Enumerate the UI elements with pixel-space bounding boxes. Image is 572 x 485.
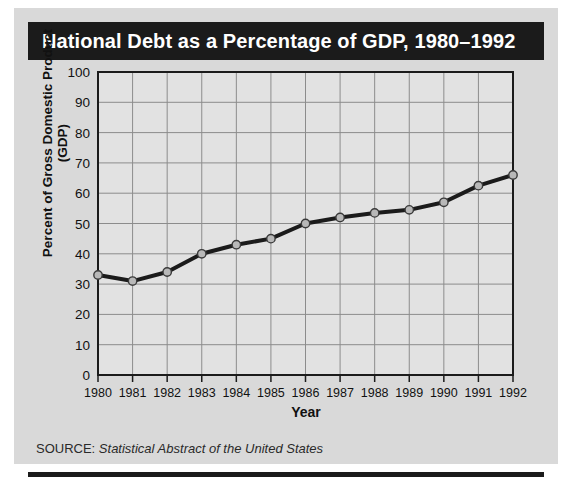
x-tick-label: 1983 [188, 386, 216, 400]
x-axis-title: Year [98, 404, 514, 420]
y-tick-label: 10 [50, 337, 90, 352]
x-tick-label: 1991 [465, 386, 493, 400]
y-tick-label: 50 [50, 216, 90, 231]
y-tick-label: 70 [50, 155, 90, 170]
x-tick-label: 1992 [499, 386, 527, 400]
x-tick-label: 1982 [153, 386, 181, 400]
y-tick-label: 60 [50, 186, 90, 201]
x-tick-label: 1980 [84, 386, 112, 400]
x-tick-label: 1990 [430, 386, 458, 400]
plot-area-wrapper: Percent of Gross Domestic Product (GDP) … [0, 0, 572, 485]
y-tick-label: 30 [50, 277, 90, 292]
y-tick-label: 90 [50, 95, 90, 110]
source-label: SOURCE: [36, 441, 95, 456]
x-tick-label: 1987 [326, 386, 354, 400]
y-tick-label: 0 [50, 368, 90, 383]
x-tick-label: 1989 [395, 386, 423, 400]
y-tick-label: 40 [50, 246, 90, 261]
x-tick-label: 1988 [361, 386, 389, 400]
y-tick-label: 80 [50, 125, 90, 140]
source-title: Statistical Abstract of the United State… [99, 441, 323, 456]
y-tick-label: 20 [50, 307, 90, 322]
x-tick-label: 1981 [119, 386, 147, 400]
x-tick-label: 1984 [222, 386, 250, 400]
bottom-rule [28, 472, 544, 477]
y-tick-label: 100 [50, 65, 90, 80]
x-tick-label: 1986 [292, 386, 320, 400]
chart-figure: National Debt as a Percentage of GDP, 19… [0, 0, 572, 485]
source-note: SOURCE: Statistical Abstract of the Unit… [36, 441, 323, 456]
x-tick-label: 1985 [257, 386, 285, 400]
